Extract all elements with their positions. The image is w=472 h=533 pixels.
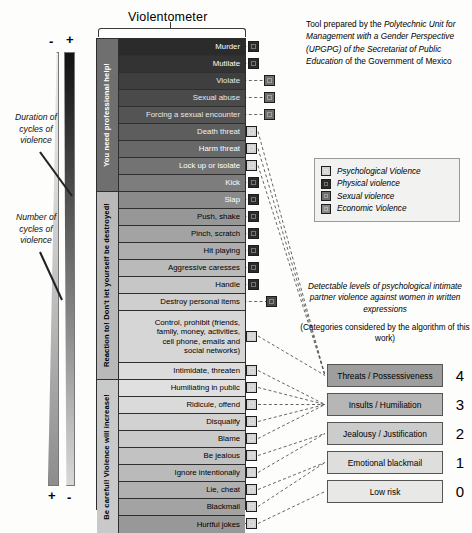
marker-sexual	[264, 109, 275, 120]
scale-row: Hurtful jokes	[119, 516, 245, 533]
marker-physical	[248, 279, 259, 290]
marker-inner	[249, 402, 254, 407]
legend-item: Sexual violence	[321, 191, 453, 201]
scale-row: Death threat	[119, 124, 245, 141]
scale-row: Blackmail	[119, 499, 245, 516]
legend-swatch-inner	[324, 194, 328, 198]
scale-row: Pinch, scratch	[119, 226, 245, 243]
marker-inner	[251, 265, 256, 270]
marker-psychological	[246, 450, 257, 461]
legend-swatch	[321, 166, 331, 176]
section-label-text: Be careful! Violence will increase!	[103, 392, 111, 522]
scale-rows: MurderMutilateViolateSexual abuseForcing…	[119, 39, 245, 509]
marker-inner	[249, 470, 254, 475]
scale-row: Intimidate, threaten	[119, 363, 245, 380]
legend-swatch-inner	[324, 169, 328, 173]
section-label-text: Reaction to! Don't let yourself be destr…	[103, 201, 111, 369]
marker-psychological	[246, 433, 257, 444]
legend-label: Economic Violence	[337, 204, 406, 213]
scale-row: Kick	[119, 175, 245, 192]
category-box-2[interactable]: Jealousy / Justification	[327, 422, 443, 445]
marker-sexual	[264, 75, 275, 86]
attrib-line2: of the Government of Mexico	[343, 56, 452, 66]
scale-row: Violate	[119, 73, 245, 90]
marker-inner	[249, 504, 254, 509]
category-box-3[interactable]: Insults / Humiliation	[327, 393, 443, 416]
scale-row: Humiliating in public	[119, 380, 245, 397]
marker-inner	[267, 112, 272, 117]
marker-inner	[251, 214, 256, 219]
marker-inner	[267, 95, 272, 100]
attrib-line1: Tool prepared by the	[306, 19, 384, 29]
marker-physical	[248, 194, 259, 205]
marker-inner	[251, 197, 256, 202]
scale-row: Slap	[119, 192, 245, 209]
plus-sign-top: +	[66, 32, 74, 47]
marker-economic	[266, 296, 277, 307]
marker-inner	[251, 231, 256, 236]
marker-psychological	[246, 501, 257, 512]
marker-psychological	[246, 126, 257, 137]
scale-row: Ignore intentionally	[119, 465, 245, 482]
marker-inner	[249, 521, 254, 526]
scale-row: Lie, cheat	[119, 482, 245, 499]
marker-physical	[248, 177, 259, 188]
scale-row: Blame	[119, 431, 245, 448]
scale-row: Lock up or isolate	[119, 158, 245, 175]
legend-swatch-inner	[324, 207, 328, 211]
section-label-1: Reaction to! Don't let yourself be destr…	[97, 192, 119, 380]
marker-psychological	[246, 399, 257, 410]
scale-row: Be jealous	[119, 448, 245, 465]
marker-inner	[249, 385, 254, 390]
marker-inner	[249, 453, 254, 458]
scale-row: Sexual abuse	[119, 90, 245, 107]
marker-inner	[249, 419, 254, 424]
marker-physical	[248, 41, 259, 52]
scale-row: Hit playing	[119, 243, 245, 260]
scale-row: Mutilate	[119, 56, 245, 73]
category-box-4[interactable]: Threats / Possessiveness	[327, 364, 443, 387]
minus-sign-bottom: -	[67, 490, 71, 505]
scale-row: Push, shake	[119, 209, 245, 226]
legend-label: Sexual violence	[337, 192, 394, 201]
scale-row: Destroy personal items	[119, 294, 245, 311]
scale-row: Control, prohibit (friends, family, mone…	[119, 311, 245, 363]
scale-row: Aggressive caresses	[119, 260, 245, 277]
marker-inner	[249, 334, 254, 339]
category-level-2: 2	[452, 422, 468, 445]
section-label-text: You need professional help!	[103, 61, 111, 169]
annotation-duration: Duration of cycles of violence	[4, 112, 68, 147]
marker-inner	[251, 44, 256, 49]
legend-item: Economic Violence	[321, 204, 453, 214]
plus-sign-bottom: +	[48, 488, 56, 503]
violence-type-legend: Psychological ViolencePhysical violenceS…	[314, 158, 460, 222]
category-level-1: 1	[452, 451, 468, 474]
marker-physical	[248, 262, 259, 273]
legend-swatch	[321, 191, 331, 201]
violentometer-scale: You need professional help!Reaction to! …	[96, 38, 246, 510]
detectable-levels-subtext: (Categories considered by the algorithm …	[300, 322, 470, 345]
legend-swatch	[321, 179, 331, 189]
attrib-mid: of the	[342, 44, 367, 54]
marker-sexual	[264, 92, 275, 103]
marker-inner	[269, 299, 274, 304]
marker-psychological	[246, 467, 257, 478]
section-label-0: You need professional help!	[97, 39, 119, 192]
attribution-text: Tool prepared by the Polytechnic Unit fo…	[306, 18, 468, 68]
scale-row: Handle	[119, 277, 245, 294]
marker-inner	[249, 163, 254, 168]
section-label-2: Be careful! Violence will increase!	[97, 380, 119, 533]
title-bracket-stem	[170, 22, 171, 29]
legend-label: Physical violence	[337, 179, 400, 188]
scale-row: Harm threat	[119, 141, 245, 158]
marker-inner	[249, 487, 254, 492]
category-box-0[interactable]: Low risk	[327, 480, 443, 503]
marker-physical	[248, 245, 259, 256]
category-level-0: 0	[452, 480, 468, 503]
section-label-column: You need professional help!Reaction to! …	[97, 39, 119, 509]
title-bracket	[98, 28, 246, 37]
page-title: Violentometer	[128, 10, 208, 24]
category-level-3: 3	[452, 393, 468, 416]
legend-item: Physical violence	[321, 179, 453, 189]
category-box-1[interactable]: Emotional blackmail	[327, 451, 443, 474]
